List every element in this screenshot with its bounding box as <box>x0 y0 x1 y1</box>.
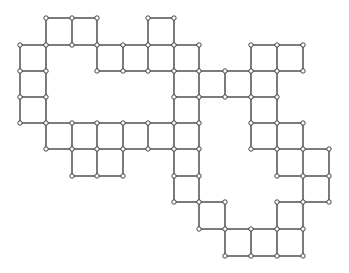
grid-node <box>301 121 305 125</box>
grid-node <box>18 43 22 47</box>
grid-node <box>223 69 227 73</box>
grid-node <box>249 95 253 99</box>
grid-node <box>121 147 125 151</box>
grid-node <box>249 254 253 258</box>
grid-node <box>95 16 99 20</box>
grid-node <box>197 227 201 231</box>
grid-node <box>275 227 279 231</box>
grid-node <box>172 200 176 204</box>
grid-node <box>301 147 305 151</box>
grid-node <box>275 174 279 178</box>
grid-node <box>275 121 279 125</box>
grid-node <box>146 69 150 73</box>
grid-node <box>70 121 74 125</box>
grid-node <box>197 200 201 204</box>
grid-node <box>249 147 253 151</box>
grid-node <box>197 147 201 151</box>
grid-node <box>172 16 176 20</box>
grid-node <box>172 174 176 178</box>
grid-node <box>275 200 279 204</box>
grid-node <box>249 69 253 73</box>
grid-node <box>275 95 279 99</box>
grid-node <box>275 69 279 73</box>
grid-node <box>223 254 227 258</box>
grid-node <box>223 95 227 99</box>
grid-node <box>172 43 176 47</box>
grid-node <box>18 121 22 125</box>
grid-node <box>249 121 253 125</box>
grid-node <box>172 69 176 73</box>
grid-node <box>327 174 331 178</box>
grid-node <box>121 121 125 125</box>
grid-node <box>44 69 48 73</box>
grid-node <box>95 121 99 125</box>
grid-node <box>301 43 305 47</box>
grid-node <box>197 69 201 73</box>
grid-node <box>301 174 305 178</box>
grid-node <box>172 95 176 99</box>
grid-node <box>18 95 22 99</box>
grid-node <box>197 43 201 47</box>
grid-node <box>95 147 99 151</box>
grid-node <box>249 227 253 231</box>
grid-node <box>70 16 74 20</box>
grid-node <box>223 227 227 231</box>
grid-node <box>275 254 279 258</box>
grid-node <box>18 69 22 73</box>
grid-node <box>301 254 305 258</box>
grid-node <box>146 16 150 20</box>
grid-node <box>70 174 74 178</box>
grid-node <box>70 43 74 47</box>
grid-node <box>121 43 125 47</box>
grid-node <box>95 174 99 178</box>
grid-node <box>301 227 305 231</box>
grid-node <box>95 69 99 73</box>
grid-node <box>197 174 201 178</box>
grid-node <box>301 69 305 73</box>
grid-node <box>121 174 125 178</box>
grid-node <box>44 95 48 99</box>
grid-node <box>197 121 201 125</box>
grid-node <box>146 43 150 47</box>
grid-node <box>172 121 176 125</box>
grid-node <box>44 43 48 47</box>
grid-node <box>197 95 201 99</box>
grid-node <box>146 121 150 125</box>
grid-node <box>70 147 74 151</box>
grid-node <box>44 16 48 20</box>
grid-node <box>327 200 331 204</box>
grid-node <box>249 43 253 47</box>
grid-edges <box>20 18 329 256</box>
grid-node <box>95 43 99 47</box>
grid-node <box>146 147 150 151</box>
grid-node <box>44 147 48 151</box>
grid-diagram <box>0 0 349 273</box>
grid-node <box>275 147 279 151</box>
grid-node <box>121 69 125 73</box>
grid-node <box>301 200 305 204</box>
grid-node <box>172 147 176 151</box>
grid-node <box>327 147 331 151</box>
grid-node <box>223 200 227 204</box>
grid-node <box>44 121 48 125</box>
grid-node <box>275 43 279 47</box>
